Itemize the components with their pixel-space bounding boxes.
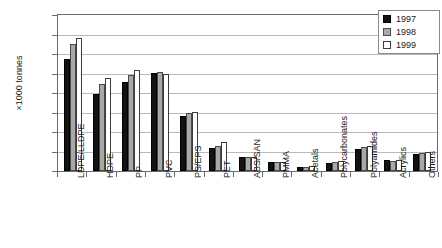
legend-swatch bbox=[383, 41, 391, 49]
x-axis-tick-mark bbox=[57, 172, 58, 177]
x-axis-tick-label: HDPE bbox=[105, 153, 115, 178]
x-axis-tick-label: PVC bbox=[164, 159, 174, 178]
bar-group bbox=[87, 15, 116, 171]
x-axis-tick-mark bbox=[174, 172, 175, 177]
y-axis-title: ×1000 tonnes bbox=[14, 28, 24, 138]
x-axis-tick-mark bbox=[379, 172, 380, 177]
x-axis-tick-mark bbox=[438, 172, 439, 177]
x-axis-tick-label: Acetals bbox=[310, 148, 320, 178]
x-axis-tick-mark bbox=[409, 172, 410, 177]
x-axis-tick-mark bbox=[233, 172, 234, 177]
x-axis-tick-label: Others bbox=[427, 151, 437, 178]
x-axis-tick-mark bbox=[291, 172, 292, 177]
legend-label: 1997 bbox=[396, 14, 416, 24]
x-axis-tick-label: Polycarbonates bbox=[339, 116, 349, 178]
legend-item: 1999 bbox=[383, 40, 435, 50]
legend: 199719981999 bbox=[378, 10, 440, 54]
x-axis-tick-mark bbox=[262, 172, 263, 177]
legend-swatch bbox=[383, 28, 391, 36]
x-axis-tick-mark bbox=[350, 172, 351, 177]
x-axis-tick-label: Acrylics bbox=[398, 147, 408, 178]
x-axis-tick-label: PET bbox=[222, 160, 232, 178]
bar bbox=[163, 74, 169, 172]
x-axis-tick-mark bbox=[321, 172, 322, 177]
x-axis-tick-mark bbox=[145, 172, 146, 177]
legend-label: 1999 bbox=[396, 40, 416, 50]
x-axis-tick-label: PP bbox=[134, 166, 144, 178]
x-axis-tick-label: Polyamides bbox=[369, 131, 379, 178]
x-axis-tick-mark bbox=[86, 172, 87, 177]
x-axis-tick-label: LDPE/LLDPE bbox=[76, 123, 86, 178]
legend-item: 1998 bbox=[383, 27, 435, 37]
legend-item: 1997 bbox=[383, 14, 435, 24]
legend-label: 1998 bbox=[396, 27, 416, 37]
bar-group bbox=[204, 15, 233, 171]
x-axis-tick-label: PS/EPS bbox=[193, 145, 203, 178]
bar-group bbox=[145, 15, 174, 171]
legend-swatch bbox=[383, 15, 391, 23]
bar-group bbox=[262, 15, 291, 171]
chart-figure: ×1000 tonnes 010002000300040005000600070… bbox=[0, 0, 442, 248]
x-axis-tick-mark bbox=[116, 172, 117, 177]
x-axis-tick-mark bbox=[204, 172, 205, 177]
x-axis-tick-label: ABS/SAN bbox=[252, 139, 262, 178]
x-axis-tick-label: PMMA bbox=[281, 151, 291, 178]
bar-group bbox=[116, 15, 145, 171]
bar bbox=[134, 70, 140, 171]
